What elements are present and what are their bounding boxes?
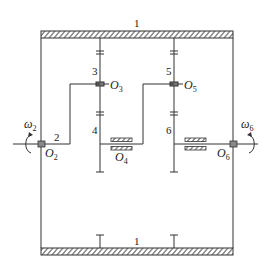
gear-5-6-column <box>170 38 183 172</box>
label-frame-top: 1 <box>134 17 140 29</box>
label-arm-2: 2 <box>54 131 60 143</box>
label-omega-6: ω6 <box>241 117 253 133</box>
bearing-o2 <box>38 141 45 147</box>
label-omega-2: ω2 <box>24 117 36 133</box>
label-frame-bottom: 1 <box>134 235 140 247</box>
label-o4: O4 <box>115 150 128 166</box>
label-gear-4: 4 <box>92 124 98 136</box>
label-o3: O3 <box>110 78 123 94</box>
label-o5: O5 <box>184 78 197 94</box>
label-gear-3: 3 <box>92 65 98 77</box>
bearing-o6 <box>230 141 237 147</box>
gear-train-diagram: 1 1 3 4 5 6 2 O3 O5 O2 O4 O6 ω2 ω6 <box>0 0 275 270</box>
gear-3-4-column <box>96 38 109 172</box>
label-gear-6: 6 <box>166 124 172 136</box>
label-o6: O6 <box>217 146 230 162</box>
frame-top <box>41 31 233 38</box>
label-gear-5: 5 <box>166 65 172 77</box>
label-o2: O2 <box>45 146 58 162</box>
arm-middle <box>100 84 174 144</box>
frame-bottom <box>41 248 233 255</box>
